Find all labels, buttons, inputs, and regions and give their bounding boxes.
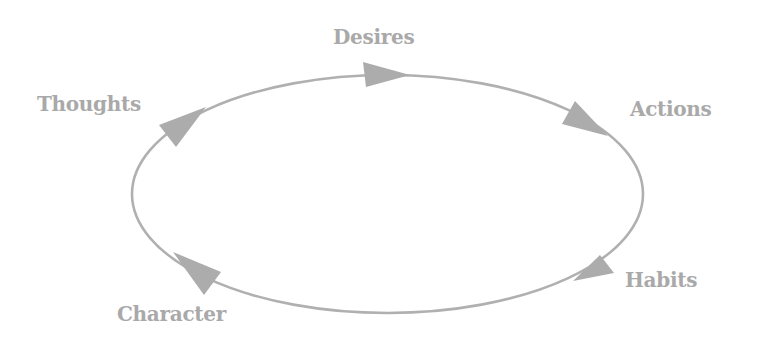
arrow-icon-to-desires [363,62,410,87]
arrow-icon-to-habits [573,255,614,281]
node-label-actions: Actions [630,99,712,119]
node-label-character: Character [117,304,226,324]
arrow-icon-to-actions [562,101,608,136]
node-label-thoughts: Thoughts [37,94,141,114]
node-label-habits: Habits [625,270,697,290]
arrow-icon-to-thoughts [159,107,206,147]
node-label-desires: Desires [333,27,414,47]
arrow-icon-to-character [173,252,221,295]
